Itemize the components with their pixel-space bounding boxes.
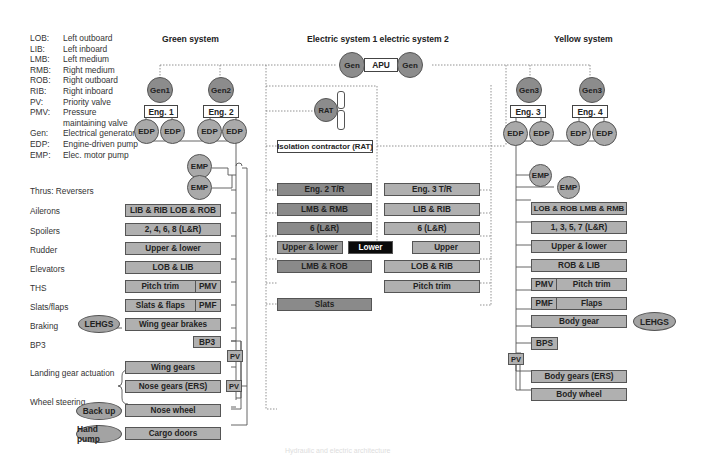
green-spoilers-box: 2, 4, 6, 8 (L&R) <box>125 223 221 236</box>
green-elevators-box: LOB & LIB <box>125 261 221 274</box>
e2-ailerons-box: LIB & RIB <box>384 203 480 216</box>
green-slats-flaps-box: Slats & flaps PMF <box>125 299 221 312</box>
apu-generator-right: Gen <box>397 52 423 78</box>
legend-row: EMP:Elec. motor pump <box>30 150 138 161</box>
green-system-title: Green system <box>162 34 219 44</box>
green-rudder-box: Upper & lower <box>125 242 221 255</box>
green-edp-4: EDP <box>222 119 247 144</box>
yellow-body-gear-box: Body gear <box>531 315 627 328</box>
yellow-ths-box: PMV Pitch trim <box>531 278 627 291</box>
yellow-emp-1: EMP <box>529 164 552 187</box>
green-pv-2: PV <box>226 380 242 392</box>
legend-row: RMB:Right medium <box>30 65 138 76</box>
e1-slats-box: Slats <box>277 298 372 311</box>
label-thrust-reversers: Thrus: Reversers <box>30 186 94 196</box>
yellow-body-wheel-box: Body wheel <box>531 388 627 401</box>
green-slats-pmf: PMF <box>195 300 220 311</box>
yellow-ailerons-box: LOB & ROB LMB & RMB <box>531 202 627 215</box>
engine-2-box: Eng. 2 <box>203 105 239 118</box>
yellow-body-gears-ers-box: Body gears (ERS) <box>531 370 627 383</box>
label-slats-flaps: Slats/flaps <box>30 302 68 312</box>
label-elevators: Elevators <box>30 264 65 274</box>
figure-caption: Hydraulic and electric architecture <box>285 447 390 454</box>
green-wing-gears-box: Wing gears <box>125 361 221 374</box>
green-nose-gears-box: Nose gears (ERS) <box>125 380 221 393</box>
yellow-rudder-box: Upper & lower <box>531 240 627 253</box>
legend-row: RIB:Right inboard <box>30 86 138 97</box>
green-pv-1: PV <box>227 350 243 362</box>
label-rudder: Rudder <box>30 245 57 255</box>
engine-3-box: Eng. 3 <box>510 105 546 118</box>
e1-ailerons-box: LMB & RMB <box>277 203 372 216</box>
e1-rudder-lower-box: Lower <box>348 241 393 254</box>
yellow-flaps-pmf: PMF <box>532 298 556 309</box>
e1-spoilers-box: 6 (L&R) <box>277 222 372 235</box>
engine-4-box: Eng. 4 <box>572 105 608 118</box>
legend-row: maintaining valve <box>30 118 138 129</box>
e2-spoilers-box: 6 (L&R) <box>384 222 480 235</box>
green-edp-1: EDP <box>134 119 159 144</box>
yellow-flaps-box: PMF Flaps <box>531 297 627 310</box>
e2-rudder-box: Upper <box>412 241 480 254</box>
green-backup-oval: Back up <box>76 402 122 420</box>
e2-ths-box: Pitch trim <box>384 280 480 293</box>
green-generator-1: Gen1 <box>147 77 173 103</box>
rat-blade-bottom-icon <box>337 110 345 130</box>
yellow-flaps-main: Flaps <box>556 298 626 309</box>
green-hand-pump-oval: Hand pump <box>76 425 122 443</box>
green-generator-2: Gen2 <box>208 77 234 103</box>
label-ailerons: Ailerons <box>30 206 60 216</box>
yellow-edp-2: EDP <box>529 121 554 146</box>
yellow-edp-1: EDP <box>503 121 528 146</box>
label-ths: THS <box>30 283 47 293</box>
apu-generator-left: Gen <box>339 52 365 78</box>
e1-reverser-box: Eng. 2 T/R <box>277 183 372 196</box>
isolation-contactor-box: Isolation contractor (RAT) <box>277 140 373 153</box>
yellow-edp-4: EDP <box>592 121 617 146</box>
e1-elevators-box: LMB & ROB <box>277 260 372 273</box>
label-spoilers: Spoilers <box>30 226 60 236</box>
green-ailerons-box: LIB & RIB LOB & ROB <box>125 204 221 217</box>
legend-row: Gen:Electrical generator <box>30 128 138 139</box>
green-bp3-box: BP3 <box>193 336 221 348</box>
legend-row: LOB:Left outboard <box>30 33 138 44</box>
green-ths-pmv: PMV <box>195 281 220 292</box>
legend-row: EDP:Engine-driven pump <box>30 139 138 150</box>
green-lehgs-oval: LEHGS <box>78 315 120 333</box>
yellow-ths-pmv: PMV <box>532 279 556 290</box>
legend-row: LIB:Left inboard <box>30 44 138 55</box>
yellow-bps-box: BPS <box>531 337 558 350</box>
green-cargo-doors-box: Cargo doors <box>125 427 221 440</box>
engine-1-box: Eng. 1 <box>144 105 178 118</box>
green-slats-flaps-main: Slats & flaps <box>126 300 195 311</box>
yellow-spoilers-box: 1, 3, 5, 7 (L&R) <box>531 221 627 234</box>
legend-row: ROB:Right outboard <box>30 75 138 86</box>
e1-rudder-box: Upper & lower <box>277 241 343 254</box>
abbreviation-legend: LOB:Left outboard LIB:Left inboard LMB:L… <box>30 33 138 160</box>
yellow-ths-pitch-trim: Pitch trim <box>556 279 626 290</box>
rat-turbine: RAT <box>314 98 338 122</box>
label-landing-gear: Landing gear actuation <box>30 368 114 378</box>
yellow-generator-3: Gen3 <box>516 77 542 103</box>
yellow-system-title: Yellow system <box>554 34 613 44</box>
e2-elevators-box: LOB & RIB <box>384 260 480 273</box>
label-braking: Braking <box>30 321 58 331</box>
electric-system-title: Electric system 1 electric system 2 <box>307 34 449 44</box>
yellow-emp-2: EMP <box>557 176 580 199</box>
yellow-pv: PV <box>508 353 524 365</box>
rat-blade-top-icon <box>337 91 345 109</box>
legend-row: LMB:Left medium <box>30 54 138 65</box>
green-edp-2: EDP <box>160 119 185 144</box>
green-ths-box: Pitch trim PMV <box>125 280 221 293</box>
label-bp3: BP3 <box>30 340 46 350</box>
green-ths-pitch-trim: Pitch trim <box>126 281 195 292</box>
apu-box: APU <box>364 58 398 72</box>
legend-row: PV:Priority valve <box>30 97 138 108</box>
yellow-elevators-box: ROB & LIB <box>531 259 627 272</box>
yellow-generator-4: Gen3 <box>579 77 605 103</box>
green-nose-wheel-box: Nose wheel <box>125 404 221 417</box>
green-braking-box: Wing gear brakes <box>125 318 221 331</box>
label-wheel-steering: Wheel steering <box>30 397 85 407</box>
yellow-lehgs-oval: LEHGS <box>633 312 676 331</box>
legend-row: PMV:Pressure <box>30 107 138 118</box>
